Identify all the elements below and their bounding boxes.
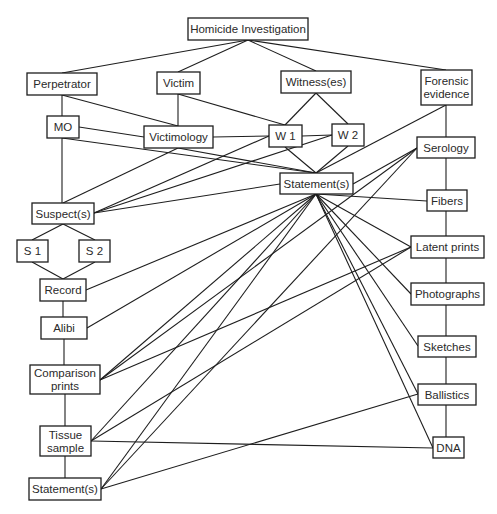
connector-line <box>178 148 316 173</box>
node-dna: DNA <box>433 437 464 458</box>
connector-line <box>94 184 280 213</box>
node-victimology: Victimology <box>144 126 213 148</box>
node-label: Fibers <box>431 195 463 207</box>
node-comparison: Comparisonprints <box>30 365 100 394</box>
connector-line <box>63 224 95 240</box>
connector-line <box>316 194 433 448</box>
node-label: sample <box>47 442 84 454</box>
node-ballistics: Ballistics <box>418 384 476 405</box>
connector-line <box>353 148 417 184</box>
node-suspects: Suspect(s) <box>32 203 94 224</box>
node-label: evidence <box>423 88 469 100</box>
node-tissue: Tissuesample <box>40 426 91 456</box>
node-homicide: Homicide Investigation <box>188 18 308 40</box>
connector-line <box>178 94 285 125</box>
node-record: Record <box>40 279 86 301</box>
node-mo: MO <box>47 116 79 138</box>
node-label: Victimology <box>149 131 208 143</box>
node-witnesses: Witness(es) <box>281 71 351 93</box>
node-label: Latent prints <box>416 241 480 253</box>
node-label: Perpetrator <box>33 78 91 90</box>
connector-line <box>302 135 332 136</box>
node-label: Ballistics <box>425 389 470 401</box>
connector-line <box>285 93 316 125</box>
node-statement-bottom: Statement(s) <box>29 478 101 500</box>
connector-line <box>316 194 411 247</box>
node-perpetrator: Perpetrator <box>27 73 97 95</box>
node-w1: W 1 <box>269 125 302 147</box>
node-label: Serology <box>423 142 469 154</box>
node-label: MO <box>54 121 73 133</box>
connector-lines <box>32 40 446 489</box>
node-label: Sketches <box>423 341 471 353</box>
node-label: Statement(s) <box>32 483 98 495</box>
node-label: Witness(es) <box>286 76 347 88</box>
node-victim: Victim <box>157 72 200 94</box>
node-label: Record <box>44 284 81 296</box>
node-statement-mid: Statement(s) <box>280 173 353 194</box>
node-forensic: Forensicevidence <box>421 70 472 105</box>
connector-line <box>178 40 248 72</box>
connector-line <box>32 224 63 240</box>
connector-line <box>100 194 316 380</box>
diagram-nodes: Homicide InvestigationPerpetratorVictimW… <box>17 18 484 500</box>
connector-line <box>316 194 418 346</box>
node-photographs: Photographs <box>411 283 484 305</box>
connector-line <box>100 247 411 380</box>
connector-line <box>316 194 411 294</box>
node-serology: Serology <box>417 137 475 158</box>
connector-line <box>91 194 316 441</box>
node-label: Victim <box>163 77 194 89</box>
node-alibi: Alibi <box>41 317 87 339</box>
connector-line <box>316 93 348 124</box>
node-label: Tissue <box>49 429 82 441</box>
connector-line <box>213 136 269 137</box>
node-fibers: Fibers <box>427 190 467 211</box>
node-label: W 2 <box>338 129 358 141</box>
connector-line <box>101 148 417 489</box>
node-label: Photographs <box>415 288 480 300</box>
node-label: Comparison <box>34 367 96 379</box>
connector-line <box>32 262 63 279</box>
node-label: Suspect(s) <box>36 208 91 220</box>
connector-line <box>316 194 418 394</box>
node-label: Homicide Investigation <box>190 23 306 35</box>
node-label: S 2 <box>86 245 103 257</box>
node-label: Statement(s) <box>284 178 350 190</box>
connector-line <box>62 40 248 73</box>
node-label: S 1 <box>24 245 41 257</box>
connector-line <box>79 127 144 137</box>
node-label: Forensic <box>424 75 468 87</box>
connector-line <box>91 247 411 441</box>
node-s2: S 2 <box>79 240 110 262</box>
node-s1: S 1 <box>17 240 48 262</box>
node-w2: W 2 <box>332 124 364 146</box>
homicide-investigation-diagram: Homicide InvestigationPerpetratorVictimW… <box>0 0 497 514</box>
node-label: Alibi <box>53 322 75 334</box>
connector-line <box>63 148 178 203</box>
node-latent: Latent prints <box>411 236 484 258</box>
node-label: W 1 <box>275 130 295 142</box>
connector-line <box>87 194 316 328</box>
connector-line <box>63 262 95 279</box>
connector-line <box>248 40 446 70</box>
connector-line <box>316 146 348 173</box>
node-label: DNA <box>436 442 461 454</box>
node-sketches: Sketches <box>418 336 476 357</box>
node-label: prints <box>51 380 79 392</box>
connector-line <box>101 394 418 489</box>
